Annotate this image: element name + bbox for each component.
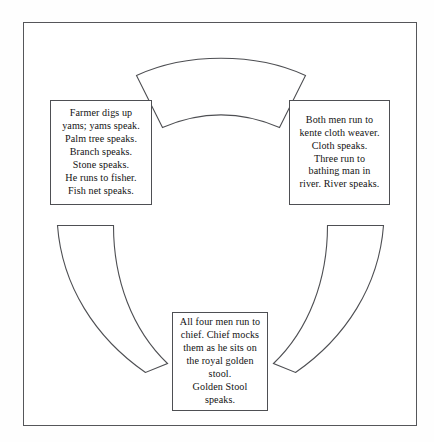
diagram-canvas: Farmer digs up yams; yams speak. Palm tr… (0, 0, 434, 442)
text-box-right-label: Both men run to kente cloth weaver. Clot… (296, 114, 382, 191)
text-box-left: Farmer digs up yams; yams speak. Palm tr… (50, 100, 152, 205)
text-box-right: Both men run to kente cloth weaver. Clot… (289, 100, 390, 205)
text-box-bottom-label: All four men run to chief. Chief mocks t… (177, 316, 263, 406)
text-box-bottom: All four men run to chief. Chief mocks t… (172, 312, 268, 411)
text-box-left-label: Farmer digs up yams; yams speak. Palm tr… (59, 107, 143, 197)
